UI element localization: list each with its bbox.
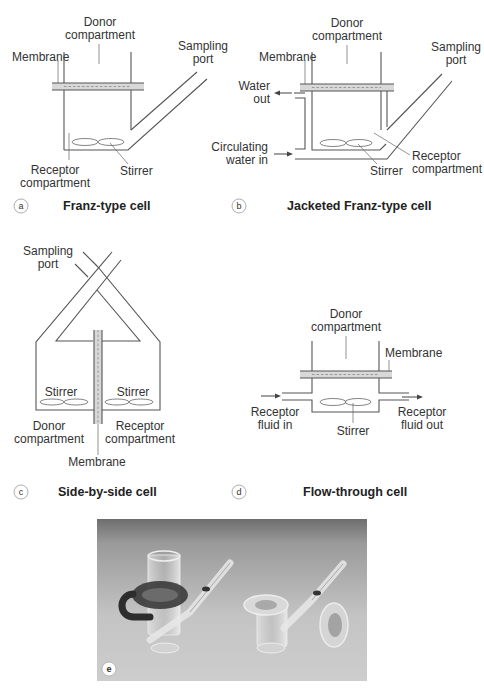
panel-b-stirrer-label: Stirrer bbox=[370, 164, 403, 178]
panel-d-stirrer-left bbox=[320, 399, 346, 406]
panel-b-water-out-arrowhead bbox=[274, 91, 280, 96]
panel-b-badge-letter: b bbox=[236, 201, 241, 211]
panel-b-water-in-label-2: water in bbox=[225, 153, 268, 167]
panel-d-fluid-out-arrowhead bbox=[417, 395, 423, 400]
panel-d-stirrer-right bbox=[345, 399, 371, 406]
panel-a-badge-letter: a bbox=[18, 201, 23, 211]
panel-d-donor-label-2: compartment bbox=[311, 320, 382, 334]
panel-d-membrane-label: Membrane bbox=[385, 346, 443, 360]
panel-a-sampling-label: Sampling bbox=[178, 39, 228, 53]
panel-b-water-in-arrowhead bbox=[287, 152, 293, 157]
panel-b-water-in-label: Circulating bbox=[211, 140, 268, 154]
panel-a-stirrer-label: Stirrer bbox=[120, 164, 153, 178]
panel-c-left-inner bbox=[56, 260, 121, 341]
panel-b-sampling-label-2: port bbox=[446, 53, 467, 67]
panel-c-stirrer-right-a bbox=[105, 399, 129, 405]
panel-c-receptor-label-2: compartment bbox=[105, 432, 176, 446]
panel-b-jacketed-franz-cell: Donor compartment Membrane Sampling port… bbox=[211, 16, 482, 213]
panel-a-membrane-label: Membrane bbox=[12, 50, 70, 64]
panel-b-caption: Jacketed Franz-type cell bbox=[287, 199, 432, 213]
panel-b-membrane-label: Membrane bbox=[259, 50, 317, 64]
panel-d-fluid-out-label: Receptor bbox=[398, 405, 447, 419]
panel-c-donor-label-2: compartment bbox=[14, 432, 85, 446]
panel-a-stirrer-left bbox=[72, 139, 98, 146]
panel-d-caption: Flow-through cell bbox=[303, 485, 407, 499]
panel-b-water-out-label: Water bbox=[238, 79, 270, 93]
panel-c-sampling-label: Sampling bbox=[23, 244, 73, 258]
panel-c-badge-letter: c bbox=[19, 487, 24, 497]
panel-d-fluid-in-label-2: fluid in bbox=[258, 418, 293, 432]
panel-d-flow-through-cell: Donor compartment Membrane Stirrer Recep… bbox=[232, 307, 446, 499]
figure-canvas: Donor compartment Membrane Sampling port… bbox=[0, 0, 484, 695]
panel-c-sampling-label-2: port bbox=[38, 257, 59, 271]
panel-c-stirrer-left-b bbox=[64, 399, 88, 405]
panel-b-sampling-label: Sampling bbox=[431, 40, 481, 54]
panel-a-sampling-label-2: port bbox=[193, 52, 214, 66]
panel-a-donor-label: Donor bbox=[84, 15, 117, 29]
panel-b-receptor-label-2: compartment bbox=[412, 162, 483, 176]
panel-d-donor-label: Donor bbox=[330, 307, 363, 321]
panel-a-donor-label-2: compartment bbox=[65, 28, 136, 42]
panel-a-receptor-label-2: compartment bbox=[20, 176, 91, 190]
panel-b-sampling-arm bbox=[387, 74, 442, 130]
panel-a-receptor-label: Receptor bbox=[31, 163, 80, 177]
panel-b-donor-label-2: compartment bbox=[312, 29, 383, 43]
panel-c-right-inner bbox=[97, 290, 140, 341]
panel-b-jacket-left bbox=[295, 98, 305, 149]
panel-d-badge-letter: d bbox=[236, 487, 241, 497]
panel-a-sampling-arm bbox=[131, 72, 197, 130]
panel-c-stirrer-right-label: Stirrer bbox=[117, 385, 150, 399]
panel-d-fluid-out-label-2: fluid out bbox=[401, 418, 444, 432]
panel-d-fluid-in-arrowhead bbox=[275, 394, 281, 399]
panel-b-receptor-label: Receptor bbox=[412, 149, 461, 163]
panel-c-caption: Side-by-side cell bbox=[58, 485, 157, 499]
panel-e-badge-letter: e bbox=[106, 664, 111, 674]
panel-a-stirrer-leader bbox=[110, 143, 128, 164]
panel-b-donor-label: Donor bbox=[331, 16, 364, 30]
panel-b-water-out-label-2: out bbox=[253, 92, 270, 106]
panel-d-stirrer-label: Stirrer bbox=[337, 424, 370, 438]
panel-b-stirrer-leader bbox=[358, 144, 377, 164]
panel-a-caption: Franz-type cell bbox=[63, 199, 151, 213]
panel-d-receptor-body bbox=[282, 400, 409, 412]
panel-c-donor-label: Donor bbox=[33, 419, 66, 433]
panel-c-membrane-label: Membrane bbox=[68, 455, 126, 469]
panel-a-franz-cell: Donor compartment Membrane Sampling port… bbox=[12, 15, 228, 213]
panel-e-photo: e bbox=[97, 519, 367, 681]
panel-b-jacket-bottom bbox=[295, 81, 452, 159]
panel-c-stirrer-left-a bbox=[40, 399, 64, 405]
panel-b-receptor-leader bbox=[374, 133, 410, 155]
panel-d-fluid-in-label: Receptor bbox=[251, 405, 300, 419]
panel-c-stirrer-right-b bbox=[129, 399, 153, 405]
panel-b-stirrer-left bbox=[320, 140, 346, 147]
panel-c-receptor-label: Receptor bbox=[116, 419, 165, 433]
panel-c-stirrer-left-label: Stirrer bbox=[45, 385, 78, 399]
panel-c-side-by-side-cell: Sampling port Stirrer Stirrer Donor comp… bbox=[14, 244, 176, 499]
